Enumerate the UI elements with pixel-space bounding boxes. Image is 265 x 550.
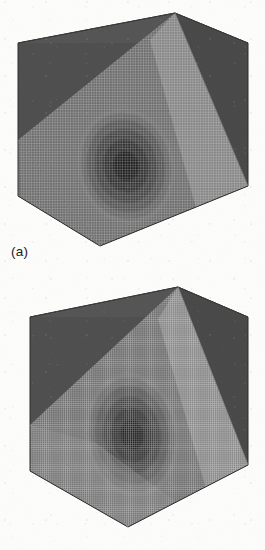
- panel-b-grain: [0, 275, 265, 550]
- panel-b-graphic: [0, 275, 265, 550]
- panel-a-grain: [0, 0, 265, 275]
- figure-panel-a: (a): [0, 0, 265, 275]
- panel-label-a: (a): [11, 245, 28, 259]
- panel-a-graphic: [0, 0, 265, 275]
- figure-page: (a): [0, 0, 265, 550]
- figure-panel-b: (b): [0, 275, 265, 550]
